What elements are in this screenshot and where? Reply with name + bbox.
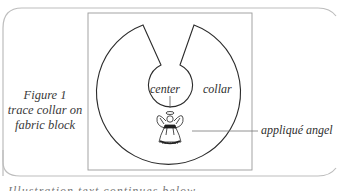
caption-instruction-line-2: fabric block (0, 118, 90, 133)
collar-diagram: Figure 1 trace collar on fabric block ce… (0, 0, 338, 191)
outer-frame-bottom (3, 150, 336, 176)
label-collar: collar (203, 82, 232, 97)
cutoff-text-line: Illustration text continues below (8, 184, 248, 191)
caption-figure-number: Figure 1 (0, 88, 90, 103)
caption-instruction-line-1: trace collar on (0, 103, 90, 118)
label-center: center (150, 82, 180, 97)
label-applique-angel: appliqué angel (261, 123, 333, 138)
angel-applique-icon (157, 112, 183, 144)
cutoff-text: Illustration text continues below (8, 184, 196, 191)
